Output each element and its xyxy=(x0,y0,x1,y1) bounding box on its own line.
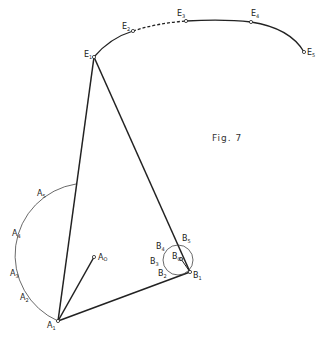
crank-A0-A1 xyxy=(58,257,94,321)
label-E5: E5 xyxy=(307,48,315,58)
label-A1: A1 xyxy=(47,321,56,331)
coupler-curve-solid-1 xyxy=(94,31,133,57)
label-B4: B4 xyxy=(156,242,165,252)
diagram-svg: E1 E2 E3 E4 E5 AO A1 A2 A3 A4 A5 BO B1 B… xyxy=(0,0,331,337)
joint-E5 xyxy=(302,50,305,53)
joint-A0 xyxy=(92,255,95,258)
label-E2: E2 xyxy=(122,22,130,32)
joint-B1 xyxy=(188,270,191,273)
coupler-curve-dashed xyxy=(133,21,186,31)
label-A2: A2 xyxy=(20,293,29,303)
label-A3: A3 xyxy=(10,269,19,279)
label-A0: AO xyxy=(98,253,107,262)
joint-E2 xyxy=(131,29,134,32)
label-B2: B2 xyxy=(158,269,167,279)
linkage-diagram: E1 E2 E3 E4 E5 AO A1 A2 A3 A4 A5 BO B1 B… xyxy=(0,0,331,337)
label-E4: E4 xyxy=(251,9,259,19)
label-E1: E1 xyxy=(84,50,92,60)
coupler-curve-solid-2 xyxy=(186,20,304,52)
figure-caption: Fig. 7 xyxy=(212,133,242,143)
label-E3: E3 xyxy=(177,9,185,19)
label-B3: B3 xyxy=(150,257,159,267)
label-A5: A5 xyxy=(37,189,46,199)
label-B0: BO xyxy=(172,252,182,262)
link-E1-B1 xyxy=(94,57,190,272)
label-B1: B1 xyxy=(193,271,202,281)
link-E1-A1 xyxy=(58,57,94,321)
joint-E4 xyxy=(249,20,252,23)
joint-A1 xyxy=(56,319,59,322)
joint-E1 xyxy=(92,55,95,58)
label-B5: B5 xyxy=(182,234,191,244)
joint-E3 xyxy=(184,19,187,22)
link-A1-B1 xyxy=(58,272,190,321)
